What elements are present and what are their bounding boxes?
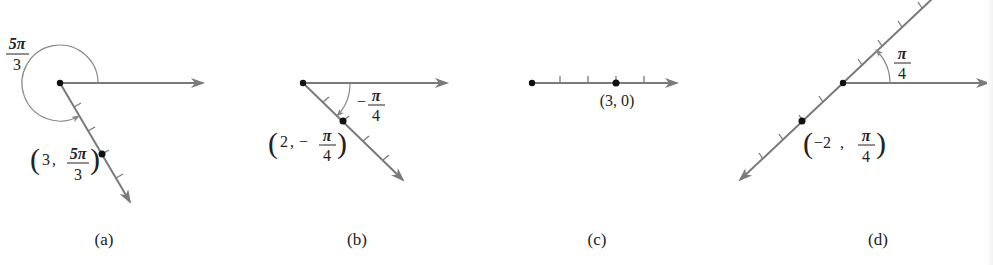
svg-text:−: − [299,133,308,150]
svg-text:π: π [323,127,333,144]
terminal-line-up [843,0,932,83]
caption-b: (b) [347,230,367,249]
angle-arc [876,50,890,83]
svg-text:4: 4 [862,148,870,165]
panel-a: 5π 3 ( 3 , 5π 3 ) (a) [6,35,203,249]
page-edge-shadow [987,0,993,265]
terminal-ray [303,83,403,180]
axis-ticks [560,76,644,83]
svg-text:2: 2 [280,133,288,150]
polar-point [799,118,806,125]
terminal-ray-down [740,83,843,180]
svg-text:,: , [290,133,294,150]
svg-text:3: 3 [13,56,21,73]
point-label: (3, 0) [600,92,635,110]
point-label: ( 2 , − π 4 ) [268,126,347,164]
panel-d: π 4 ( −2 , π 4 ) (d) [740,0,988,249]
svg-text:,: , [840,134,844,151]
svg-text:4: 4 [372,107,380,124]
caption-a: (a) [95,230,114,249]
svg-text:π: π [898,45,908,62]
svg-text:(: ( [30,142,40,176]
svg-text:4: 4 [898,65,906,82]
svg-text:3: 3 [42,151,50,168]
polar-point [613,80,620,87]
svg-text:): ) [90,142,100,176]
svg-text:−: − [357,93,366,110]
panel-b: − π 4 ( 2 , − π 4 ) (b) [268,80,447,249]
panel-c: (3, 0) (c) [529,76,677,249]
svg-text:(: ( [803,126,813,160]
caption-c: (c) [588,230,607,249]
svg-text:): ) [337,126,347,160]
point-label: ( −2 , π 4 ) [803,126,886,165]
caption-d: (d) [868,230,888,249]
polar-points-figure: 5π 3 ( 3 , 5π 3 ) (a) − π [0,0,993,265]
svg-text:(: ( [268,126,278,160]
origin-point [300,80,306,86]
svg-text:5π: 5π [70,145,88,162]
svg-text:4: 4 [323,147,331,164]
point-label: ( 3 , 5π 3 ) [30,142,100,183]
svg-text:3: 3 [74,166,82,183]
origin-point [57,80,63,86]
svg-text:,: , [52,151,56,168]
polar-point [340,118,347,125]
origin-point [529,80,535,86]
svg-text:π: π [862,127,872,144]
svg-text:π: π [372,87,382,104]
angle-label: − π 4 [357,87,385,124]
angle-arc [337,83,350,116]
svg-text:): ) [876,126,886,160]
svg-text:−2: −2 [814,134,831,151]
svg-text:5π: 5π [9,35,27,52]
origin-point [840,80,846,86]
angle-label: π 4 [894,45,911,82]
